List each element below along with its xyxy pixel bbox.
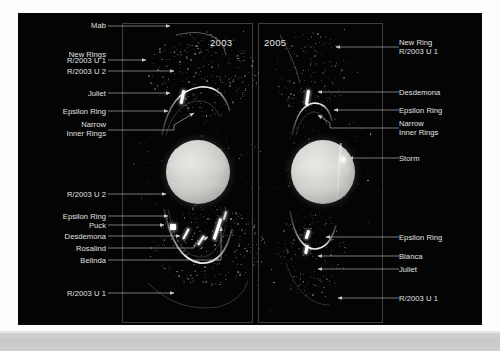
moon-streak-puck-2003 [170, 224, 176, 230]
annotation-r-2003-u-2-lower: R/2003 U 2 [0, 190, 106, 199]
annotation-juliet: Juliet [0, 89, 106, 98]
page-shadow-band [0, 333, 500, 351]
annotation-puck: Puck [0, 221, 106, 230]
annotation-r-2003-u-1-lower: R/2003 U 1 [0, 289, 106, 298]
annotation-mab: Mab [0, 21, 106, 30]
annotation-desdemona-2005: Desdemona [399, 88, 499, 97]
annotation-rosalind: Rosalind [0, 244, 106, 253]
annotation-r-2003-u-2: R/2003 U 2 [0, 67, 106, 76]
annotation-belinda: Belinda [0, 256, 106, 265]
annotation-epsilon-ring-top: Epsilon Ring [0, 107, 106, 116]
planet-band [170, 156, 226, 176]
annotation-bianca: Bianca [399, 252, 499, 261]
annotation-narrow-inner-rings-2005: Narrow Inner Rings [399, 119, 499, 137]
annotation-epsilon-ring-top-2005: Epsilon Ring [399, 106, 499, 115]
annotation-epsilon-ring-lower: Epsilon Ring [0, 212, 106, 221]
annotation-narrow-inner-rings-top: Narrow Inner Rings [0, 120, 106, 138]
annotation-juliet-2005: Juliet [399, 265, 499, 274]
annotation-epsilon-ring-lower-2005: Epsilon Ring [399, 233, 499, 242]
year-label-2003: 2003 [210, 37, 232, 48]
annotation-new-ring-r-2003-u-1: New Ring R/2003 U 1 [399, 38, 499, 56]
annotation-desdemona: Desdemona [0, 232, 106, 241]
year-label-2005: 2005 [264, 37, 286, 48]
figure-root: 2003 2005 [0, 0, 500, 351]
annotation-r-2003-u-1-lower-2005: R/2003 U 1 [399, 294, 499, 303]
planet-band [172, 178, 224, 192]
uranus-disk-2003 [166, 140, 230, 204]
planet-band [297, 180, 349, 194]
uranus-disk-2005 [291, 140, 355, 204]
storm-bright-spot [340, 155, 346, 164]
annotation-storm: Storm [399, 154, 499, 163]
annotation-r-2003-u-1: R/2003 U 1 [0, 56, 106, 65]
